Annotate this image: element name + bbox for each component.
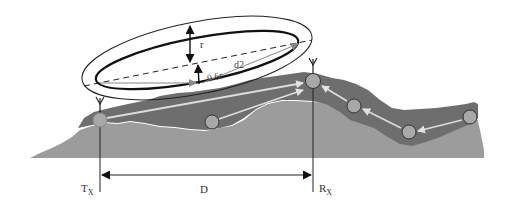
transmitter-label-sub: X xyxy=(88,188,94,197)
d2-label: d2 xyxy=(234,60,244,70)
distance-label: D xyxy=(200,184,208,195)
transmitter-label-main: T xyxy=(81,182,88,194)
diagram-canvas xyxy=(0,0,510,211)
fresnel-zone-diagram: r d2 0.6r TX D RX xyxy=(0,0,510,211)
node-n3 xyxy=(402,125,416,139)
node-n2 xyxy=(347,99,361,113)
antenna-icon-rx xyxy=(309,58,317,73)
receiver-label-sub: X xyxy=(326,188,332,197)
node-tx xyxy=(93,113,107,127)
transmitter-label: TX xyxy=(81,183,94,197)
clearance-arrow xyxy=(198,65,199,84)
node-rx xyxy=(306,74,321,89)
node-n4 xyxy=(463,110,477,124)
antenna-icon-tx xyxy=(96,97,104,112)
node-n1 xyxy=(205,115,219,129)
radius-label: r xyxy=(200,39,204,50)
receiver-label: RX xyxy=(319,183,332,197)
